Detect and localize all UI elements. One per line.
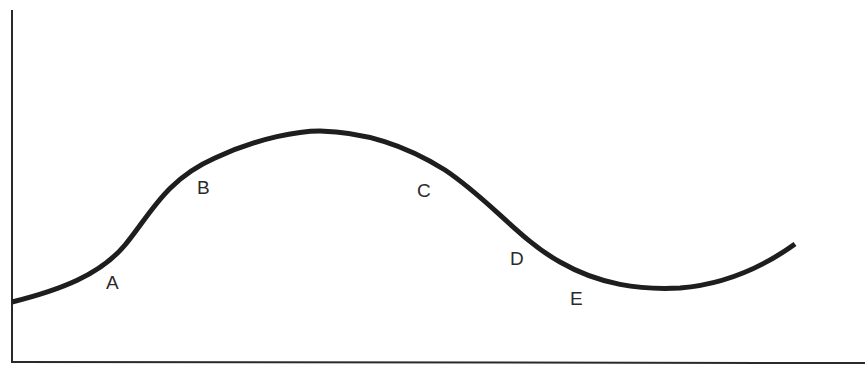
point-label-a: A [106,272,119,293]
point-label-c: C [417,180,431,201]
point-label-e: E [570,288,583,309]
x-axis [11,362,865,363]
chart: A B C D E [0,0,865,383]
point-label-b: B [197,177,210,198]
point-label-d: D [510,248,524,269]
data-curve [12,131,795,302]
